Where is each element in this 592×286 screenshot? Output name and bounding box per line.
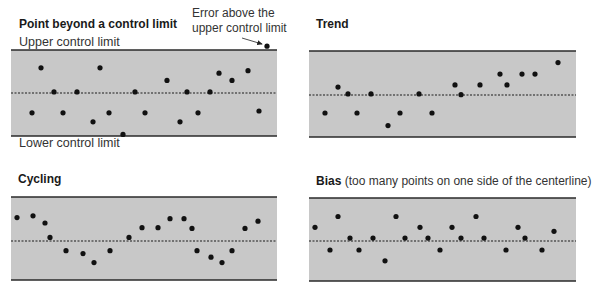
data-point	[429, 110, 434, 115]
data-point	[155, 225, 160, 230]
data-point	[194, 248, 199, 253]
data-point	[139, 225, 144, 230]
data-point	[184, 89, 189, 94]
data-point	[551, 229, 556, 234]
data-point	[402, 236, 407, 241]
data-point	[181, 216, 186, 221]
data-point	[437, 247, 442, 252]
data-point	[425, 236, 430, 241]
data-point	[555, 60, 560, 65]
data-point	[242, 226, 247, 231]
data-point	[29, 110, 34, 115]
data-point	[382, 258, 387, 263]
data-point	[519, 72, 524, 77]
data-point	[167, 216, 172, 221]
data-point	[63, 248, 68, 253]
data-point	[42, 220, 47, 225]
data-point	[354, 110, 359, 115]
data-point	[452, 82, 457, 87]
data-point	[481, 236, 486, 241]
data-point	[393, 214, 398, 219]
data-point	[515, 225, 520, 230]
data-point	[90, 119, 95, 124]
data-point	[322, 110, 327, 115]
data-point	[164, 78, 169, 83]
panel-trend	[309, 51, 576, 137]
data-point	[142, 110, 147, 115]
data-point	[91, 260, 96, 265]
data-point	[60, 110, 65, 115]
data-point	[473, 214, 478, 219]
data-point	[80, 251, 85, 256]
panel-cycling	[11, 197, 277, 280]
data-point	[417, 225, 422, 230]
data-point	[208, 255, 213, 260]
data-point	[264, 44, 269, 49]
data-point	[497, 72, 502, 77]
data-point	[335, 84, 340, 89]
data-point	[229, 248, 234, 253]
data-point	[397, 110, 402, 115]
data-point	[312, 225, 317, 230]
data-point	[245, 68, 250, 73]
data-point	[522, 236, 527, 241]
annotation-arrow	[242, 38, 262, 44]
data-point	[356, 247, 361, 252]
data-point	[107, 248, 112, 253]
panel-bias	[309, 198, 576, 281]
data-point	[106, 110, 111, 115]
data-point	[532, 72, 537, 77]
data-point	[120, 132, 125, 137]
data-point	[385, 123, 390, 128]
data-point	[504, 82, 509, 87]
data-point	[458, 236, 463, 241]
data-point	[126, 235, 131, 240]
data-point	[51, 89, 56, 94]
data-point	[132, 89, 137, 94]
data-point	[30, 213, 35, 218]
data-point	[449, 225, 454, 230]
data-point	[416, 91, 421, 96]
data-point	[177, 119, 182, 124]
data-point	[335, 214, 340, 219]
data-point	[47, 235, 52, 240]
data-point	[368, 91, 373, 96]
data-point	[207, 89, 212, 94]
data-point	[539, 247, 544, 252]
data-point	[14, 215, 19, 220]
data-point	[370, 236, 375, 241]
data-point	[229, 78, 234, 83]
panel-point-beyond-limit	[11, 38, 277, 137]
data-point	[503, 247, 508, 252]
data-point	[97, 65, 102, 70]
data-point	[195, 110, 200, 115]
data-point	[38, 65, 43, 70]
data-point	[74, 89, 79, 94]
data-point	[189, 226, 194, 231]
data-point	[477, 82, 482, 87]
data-point	[347, 236, 352, 241]
data-point	[327, 247, 332, 252]
data-point	[216, 71, 221, 76]
data-point	[256, 108, 261, 113]
data-point	[219, 260, 224, 265]
data-point	[345, 91, 350, 96]
data-point	[255, 219, 260, 224]
data-point	[458, 92, 463, 97]
